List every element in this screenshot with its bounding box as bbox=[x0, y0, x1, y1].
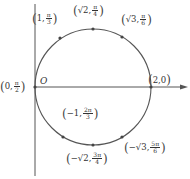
point-marker bbox=[91, 143, 94, 146]
point-marker bbox=[120, 35, 123, 38]
point-label: (√3, π6) bbox=[121, 13, 152, 26]
point-label: (√2, π4) bbox=[73, 4, 104, 17]
point-label: (1, π3) bbox=[32, 12, 57, 25]
point-marker bbox=[33, 85, 36, 88]
origin-label: O bbox=[40, 76, 47, 86]
point-label: (−√2, 3π4) bbox=[66, 152, 108, 165]
point-marker bbox=[120, 135, 123, 138]
point-label: (2, 0) bbox=[148, 74, 171, 86]
point-label: (0, π2) bbox=[0, 80, 25, 93]
arrow-right-icon bbox=[180, 85, 188, 90]
point-marker bbox=[58, 36, 61, 39]
point-marker bbox=[61, 135, 64, 138]
point-marker bbox=[91, 27, 94, 30]
point-label: (−1, 2π3) bbox=[62, 107, 98, 120]
point-label: (−√3, 5π6) bbox=[124, 141, 166, 154]
